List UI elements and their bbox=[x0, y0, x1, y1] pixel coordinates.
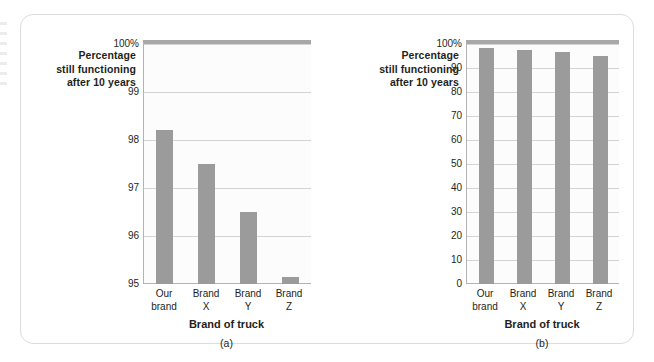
bar bbox=[593, 56, 608, 284]
y-axis-tick-label: 50 bbox=[426, 159, 462, 169]
x-axis-category-label: Brand Z bbox=[268, 288, 310, 313]
y-axis-tick-label: 60 bbox=[426, 135, 462, 145]
bar bbox=[240, 212, 257, 284]
gridline bbox=[144, 92, 311, 93]
y-axis-tick-label: 30 bbox=[426, 207, 462, 217]
margin-mark bbox=[0, 82, 7, 85]
bar bbox=[555, 52, 570, 284]
y-axis-tick-label: 95 bbox=[103, 279, 139, 289]
y-axis-tick-label: 97 bbox=[103, 183, 139, 193]
x-axis-category-label: Our brand bbox=[466, 288, 504, 313]
margin-mark bbox=[0, 52, 7, 55]
y-axis-tick-labels-a: 9596979899100% bbox=[103, 44, 139, 284]
chart-b: Percentage still functioning after 10 ye… bbox=[328, 15, 635, 345]
y-axis-tick-label: 96 bbox=[103, 231, 139, 241]
y-axis-tick-label: 10 bbox=[426, 255, 462, 265]
gridline bbox=[467, 44, 619, 45]
y-axis-tick-label: 40 bbox=[426, 183, 462, 193]
bar bbox=[479, 48, 494, 284]
x-axis-category-label: Brand X bbox=[185, 288, 227, 313]
page-margin-artifacts bbox=[0, 22, 12, 192]
margin-mark bbox=[0, 62, 7, 65]
gridline bbox=[144, 44, 311, 45]
y-axis-tick-label: 80 bbox=[426, 87, 462, 97]
y-axis-tick-labels-b: 0102030405060708090100% bbox=[426, 44, 462, 284]
y-axis-tick-label: 98 bbox=[103, 135, 139, 145]
plot-area-b bbox=[466, 40, 619, 284]
chart-a: Percentage still functioning after 10 ye… bbox=[21, 15, 328, 345]
y-axis-tick-label: 99 bbox=[103, 87, 139, 97]
margin-mark bbox=[0, 72, 7, 75]
y-axis-tick-label: 20 bbox=[426, 231, 462, 241]
x-axis-title-b: Brand of truck bbox=[466, 318, 618, 330]
y-axis-tick-label: 90 bbox=[426, 63, 462, 73]
bar bbox=[156, 130, 173, 284]
margin-mark bbox=[0, 32, 7, 35]
y-axis-tick-label: 0 bbox=[426, 279, 462, 289]
caption-a: (a) bbox=[143, 337, 310, 349]
bar bbox=[198, 164, 215, 284]
x-axis-category-label: Brand Y bbox=[227, 288, 269, 313]
y-axis-tick-label: 100% bbox=[103, 39, 139, 49]
plot-area-a bbox=[143, 40, 311, 284]
bar bbox=[282, 277, 299, 284]
x-axis-category-label: Brand Y bbox=[542, 288, 580, 313]
x-axis-category-label: Brand Z bbox=[580, 288, 618, 313]
x-axis-category-label: Our brand bbox=[143, 288, 185, 313]
margin-mark bbox=[0, 22, 7, 25]
margin-mark bbox=[0, 42, 7, 45]
caption-b: (b) bbox=[466, 337, 618, 349]
bar bbox=[517, 50, 532, 284]
figure-panel: Percentage still functioning after 10 ye… bbox=[20, 14, 634, 344]
y-axis-tick-label: 100% bbox=[426, 39, 462, 49]
y-axis-tick-label: 70 bbox=[426, 111, 462, 121]
x-axis-category-label: Brand X bbox=[504, 288, 542, 313]
x-axis-title-a: Brand of truck bbox=[143, 318, 310, 330]
